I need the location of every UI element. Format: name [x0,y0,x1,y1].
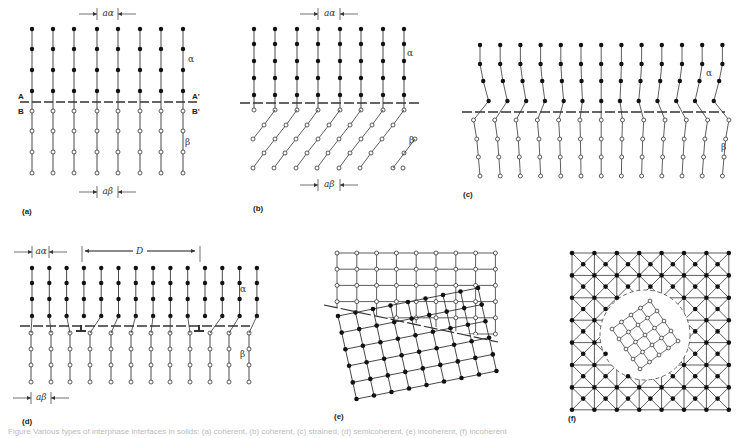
panel-label-e: (e) [334,412,344,421]
spacing-label: aβ [103,186,114,196]
panel-label-b: (b) [253,204,264,213]
phase-beta: β [185,137,190,147]
spacing-label: aα [324,8,335,18]
plane-label: B [18,107,24,116]
panel-labels: (a)(b)(c)(d)(e)(f) [22,190,576,426]
phase-alpha: α [240,284,246,294]
panel-b: aαaβαβ [240,8,420,191]
phase-beta: β [409,135,414,145]
spacing-label: aβ [36,392,47,402]
panel-label-a: (a) [22,207,32,216]
panel-c: αβ [462,43,731,178]
panel-label-d: (d) [22,417,33,426]
phase-alpha: α [706,68,712,78]
spacing-label: aα [36,246,47,256]
panel-d: Daαaβαβ [13,244,259,404]
phase-beta: β [240,349,245,359]
figure-caption: Figure Various types of interphase inter… [8,427,507,436]
plane-label: B' [192,107,200,116]
phase-beta: β [721,142,726,152]
panel-label-c: (c) [463,190,473,199]
spacing-label: aα [103,8,114,18]
interphase-interfaces-figure: aαaβAA'BB'αβ aαaβαβ αβ Daαaβαβ (a)(b)(c)… [0,0,742,438]
panel-a: aαaβAA'BB'αβ [18,8,200,198]
panel-e [324,251,500,401]
phase-alpha: α [188,54,194,64]
dislocation-spacing-label: D [135,246,143,256]
panel-label-f: (f) [568,414,576,423]
panel-f [570,251,731,412]
plane-label: A' [192,92,200,101]
spacing-label: aβ [324,179,335,189]
phase-alpha: α [407,48,413,58]
plane-label: A [18,92,24,101]
